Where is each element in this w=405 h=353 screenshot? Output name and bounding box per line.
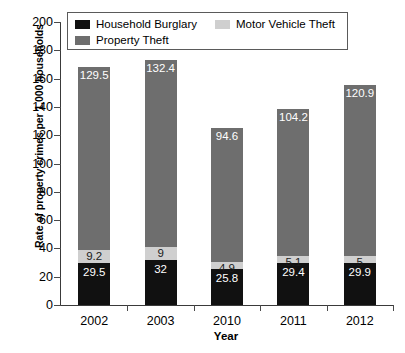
bar-value-label: 32 <box>145 264 177 276</box>
bar-2003: 329132.4 <box>145 60 177 305</box>
bar-segment-household-burglary-2003: 32 <box>145 260 177 305</box>
bar-value-label: 29.9 <box>344 267 376 279</box>
bar-value-label: 5 <box>344 257 376 269</box>
bar-segment-property-theft-2002: 129.5 <box>78 67 110 250</box>
bar-segment-property-theft-2011: 104.2 <box>277 109 309 256</box>
bar-value-label: 132.4 <box>145 63 177 75</box>
bar-2012: 29.95120.9 <box>344 85 376 305</box>
y-axis-tick <box>54 305 61 306</box>
y-axis-tick-label: 0 <box>0 299 53 312</box>
y-axis-tick-label: 120 <box>0 129 53 142</box>
bar-value-label: 9.2 <box>78 251 110 263</box>
x-axis-tick-label: 2010 <box>192 314 262 328</box>
plot-area: 020406080100120140160180200200229.59.212… <box>60 22 393 306</box>
bar-value-label: 129.5 <box>78 70 110 82</box>
x-axis-tick <box>393 305 394 311</box>
legend-swatch-motor-vehicle-theft <box>215 20 230 29</box>
y-axis-tick-label: 200 <box>0 16 53 29</box>
bar-value-label: 5.1 <box>277 257 309 269</box>
bar-value-label: 9 <box>145 248 177 260</box>
x-axis-tick <box>194 305 195 311</box>
y-axis-tick <box>54 107 61 108</box>
bar-segment-property-theft-2010: 94.6 <box>211 128 243 262</box>
legend-label-property-theft: Property Theft <box>96 32 169 48</box>
y-axis-tick <box>54 135 61 136</box>
y-axis-tick <box>54 248 61 249</box>
y-axis-tick <box>54 79 61 80</box>
y-axis-tick-label: 160 <box>0 72 53 85</box>
bar-segment-property-theft-2003: 132.4 <box>145 60 177 247</box>
bar-value-label: 104.2 <box>277 112 309 124</box>
x-axis-tick-label: 2011 <box>258 314 328 328</box>
bar-value-label: 29.4 <box>277 267 309 279</box>
bar-value-label: 120.9 <box>344 88 376 100</box>
bar-value-label: 29.5 <box>78 267 110 279</box>
stacked-bar-chart: Rate of property crimes per 1,000 househ… <box>0 0 405 353</box>
x-axis-tick <box>127 305 128 311</box>
bar-segment-motor-vehicle-theft-2002: 9.2 <box>78 250 110 263</box>
bar-value-label: 25.8 <box>211 273 243 285</box>
bar-segment-property-theft-2012: 120.9 <box>344 85 376 256</box>
bar-value-label: 94.6 <box>211 131 243 143</box>
x-axis-tick-label: 2003 <box>126 314 196 328</box>
bar-segment-motor-vehicle-theft-2012: 5 <box>344 256 376 263</box>
y-axis-tick <box>54 164 61 165</box>
legend-swatch-household-burglary <box>75 20 90 29</box>
bar-segment-motor-vehicle-theft-2010: 4.9 <box>211 262 243 269</box>
legend-swatch-property-theft <box>75 36 90 45</box>
x-axis-tick <box>327 305 328 311</box>
y-axis-tick-label: 20 <box>0 270 53 283</box>
y-axis-tick-label: 100 <box>0 157 53 170</box>
bar-segment-motor-vehicle-theft-2011: 5.1 <box>277 256 309 263</box>
legend-label-household-burglary: Household Burglary <box>96 16 197 32</box>
y-axis-tick <box>54 22 61 23</box>
y-axis-tick-label: 60 <box>0 214 53 227</box>
y-axis-tick-label: 180 <box>0 44 53 57</box>
bar-2002: 29.59.2129.5 <box>78 67 110 305</box>
bar-segment-motor-vehicle-theft-2003: 9 <box>145 247 177 260</box>
x-axis-tick-label: 2012 <box>325 314 395 328</box>
y-axis-tick <box>54 192 61 193</box>
bar-segment-household-burglary-2012: 29.9 <box>344 263 376 305</box>
x-axis-tick-label: 2002 <box>59 314 129 328</box>
x-axis-title: Year <box>60 330 392 342</box>
legend: Household Burglary Motor Vehicle Theft P… <box>67 12 348 50</box>
y-axis-tick <box>54 220 61 221</box>
y-axis-tick <box>54 277 61 278</box>
bar-2010: 25.84.994.6 <box>211 128 243 305</box>
bar-value-label: 4.9 <box>211 263 243 275</box>
y-axis-tick-label: 80 <box>0 186 53 199</box>
bar-segment-household-burglary-2011: 29.4 <box>277 263 309 305</box>
y-axis-tick-label: 140 <box>0 101 53 114</box>
bar-segment-household-burglary-2002: 29.5 <box>78 263 110 305</box>
y-axis-tick <box>54 50 61 51</box>
legend-label-motor-vehicle-theft: Motor Vehicle Theft <box>236 16 335 32</box>
bar-2011: 29.45.1104.2 <box>277 109 309 305</box>
y-axis-tick-label: 40 <box>0 242 53 255</box>
x-axis-tick <box>260 305 261 311</box>
